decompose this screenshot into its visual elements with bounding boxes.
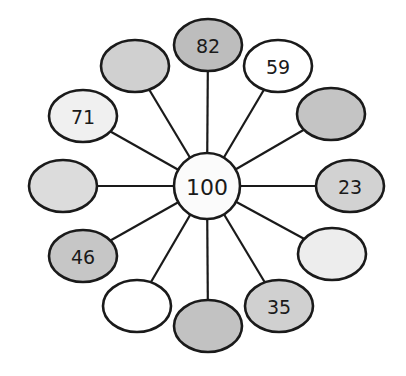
- node-bottom: [174, 300, 242, 352]
- node-bottom-left: [103, 280, 171, 332]
- spider-diagram: 825923354671 100: [0, 0, 406, 376]
- node-value: 82: [196, 35, 220, 57]
- node-top-right: 59: [244, 40, 312, 92]
- node-ellipse: [29, 160, 97, 212]
- node-ellipse: [297, 88, 365, 140]
- center-node: 100: [174, 153, 240, 219]
- node-left-top: 71: [49, 90, 117, 142]
- node-ellipse: [101, 40, 169, 92]
- node-top-left: [101, 40, 169, 92]
- node-left-bottom: 46: [49, 230, 117, 282]
- node-ellipse: [174, 300, 242, 352]
- node-value: 59: [266, 56, 290, 78]
- node-right-bottom: [298, 228, 366, 280]
- node-value: 46: [71, 246, 95, 268]
- node-top: 82: [174, 19, 242, 71]
- node-value: 23: [338, 176, 362, 198]
- diagram-canvas: 825923354671 100: [0, 0, 406, 376]
- node-right-top: [297, 88, 365, 140]
- node-value: 35: [267, 296, 291, 318]
- node-value: 71: [71, 106, 95, 128]
- center-value: 100: [186, 175, 228, 200]
- node-right: 23: [316, 160, 384, 212]
- node-left: [29, 160, 97, 212]
- node-bottom-right: 35: [245, 280, 313, 332]
- node-ellipse: [298, 228, 366, 280]
- node-ellipse: [103, 280, 171, 332]
